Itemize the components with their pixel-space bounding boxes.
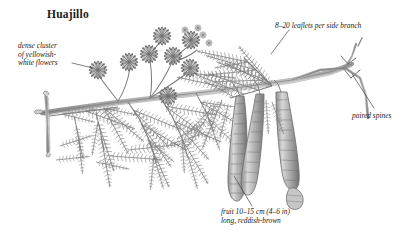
figure-title: Huajillo xyxy=(47,8,89,20)
label-fruit-size: fruit 10–15 cm (4–6 in) long, reddish-br… xyxy=(221,208,290,225)
label-paired-spines: paired spines xyxy=(352,112,391,121)
label-leaflets-per-branch: 8–20 leaflets per side branch xyxy=(275,22,361,31)
label-dense-cluster: dense cluster of yellowish- white flower… xyxy=(18,42,58,68)
illustration-plate: Huajillo dense cluster of yellowish- whi… xyxy=(0,0,416,240)
